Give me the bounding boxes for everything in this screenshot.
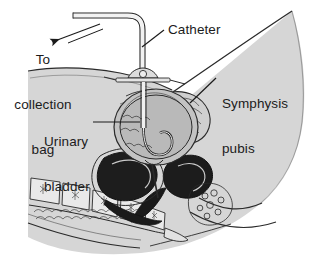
catheter-tube-lumen-fill xyxy=(73,16,143,73)
medical-illustration-figure: To collection bag Catheter Symphysis pub… xyxy=(0,0,322,257)
catheter-tube-outer xyxy=(73,13,145,72)
label-urinary-bladder: Urinary bladder xyxy=(44,104,90,224)
label-urinary-bladder-line-2: bladder xyxy=(44,179,90,194)
catheter-anchor-plate xyxy=(116,78,170,82)
label-urinary-bladder-line-1: Urinary xyxy=(44,134,90,149)
catheter-anchor-wing-right xyxy=(170,80,185,84)
label-symphysis-pubis-line-2: pubis xyxy=(222,141,288,156)
label-catheter: Catheter xyxy=(168,22,221,37)
label-symphysis-pubis-line-1: Symphysis xyxy=(222,96,288,111)
catheter-hub-ring xyxy=(139,70,146,77)
label-collection-bag-line-1: To xyxy=(4,52,82,67)
label-symphysis-pubis: Symphysis pubis xyxy=(222,66,288,186)
catheter-tube-inner xyxy=(73,18,140,72)
